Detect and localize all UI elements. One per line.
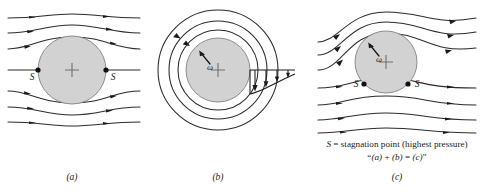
stagnation-point-dot [103,67,108,72]
arrowhead-icon [445,118,452,121]
caption-ref-a: (a) [371,152,382,162]
caption-line-1-text: = stagnation point (highest pressure) [331,139,468,149]
panel-label-c: (c) [392,172,403,183]
arrowhead-icon [103,15,110,18]
arrowhead-icon [445,49,452,54]
arrowhead-icon [333,34,340,40]
caption-ref-b: (b) [392,152,403,162]
arrowhead-icon [24,91,31,94]
velocity-profile-group [250,70,295,94]
arrowhead-icon [103,122,110,125]
caption-equals: = [403,152,413,162]
arrowhead-icon [334,46,341,52]
stagnation-point-dot [361,81,366,86]
arrowhead-icon [447,34,454,39]
flow-superposition-figure: S S (a) ω [0,0,492,194]
panel-a-group: S S (a) [8,14,140,183]
panel-label-b: (b) [212,172,223,183]
stagnation-label-right: S [111,72,116,82]
panel-c-group: ω S S S = stagnation point (highest pres… [318,12,476,183]
figure-canvas: S S (a) ω [0,0,492,194]
stagnation-label-left: S [354,79,359,89]
omega-label: ω [207,62,213,72]
omega-label: ω [376,54,382,64]
stagnation-label-right: S [415,79,420,89]
caption-line-2: “(a) + (b) = (c)” [367,152,426,162]
caption-close-quote: ” [423,152,427,162]
streamline [8,122,140,126]
stagnation-point-dot [35,67,40,72]
arrowhead-icon [24,46,31,49]
streamline [8,14,140,18]
arrowhead-icon [447,86,454,89]
panel-label-a: (a) [66,172,77,183]
arrowhead-icon [110,41,117,44]
arrowhead-icon [173,33,180,39]
stagnation-label-left: S [30,72,35,82]
caption-ref-c: (c) [412,152,422,162]
caption-line-1: S = stagnation point (highest pressure) [326,139,467,149]
arrowhead-icon [110,95,117,98]
panel-b-group: ω (b) [158,10,295,183]
caption-plus: + [382,152,392,162]
arrowhead-icon [286,73,290,78]
stagnation-point-dot [405,81,410,86]
